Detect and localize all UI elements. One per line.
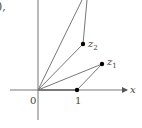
point-z1 [100, 62, 104, 66]
segment-z2-to-top [83, 0, 87, 44]
unit-label: 1 [75, 95, 81, 106]
segment-origin-to-z2 [38, 44, 83, 90]
segment-origin-to-z1 [38, 64, 102, 90]
segment-origin-to-top [38, 0, 82, 90]
point-one [75, 88, 79, 92]
segment-1-to-z1 [77, 64, 102, 90]
z1-label: z1 [106, 56, 117, 70]
x-axis-label: x [130, 84, 136, 95]
complex-plane-diagram: ), x 0 1 z1 z2 [0, 0, 142, 128]
caption-fragment: ), [0, 0, 6, 13]
origin-label: 0 [30, 95, 36, 106]
point-z2 [81, 42, 85, 46]
z2-label: z2 [87, 38, 98, 52]
